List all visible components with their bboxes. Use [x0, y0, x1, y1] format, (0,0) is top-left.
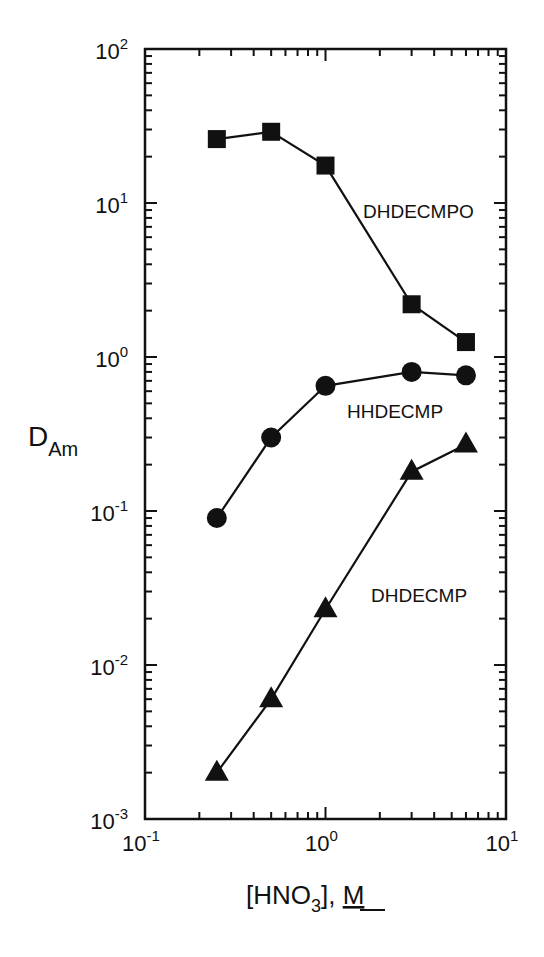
x-tick-label: 101	[486, 827, 519, 856]
circle-marker	[402, 362, 422, 382]
square-marker	[403, 295, 421, 313]
circle-marker	[261, 428, 281, 448]
y-axis-label: DAm	[28, 421, 78, 460]
triangle-marker	[400, 459, 424, 480]
x-tick-label: 10-1	[122, 827, 160, 856]
triangle-marker	[259, 686, 283, 707]
x-axis-label: [HNO3], M	[246, 880, 364, 916]
circle-marker	[207, 508, 227, 528]
y-tick-label: 10-1	[90, 497, 128, 526]
series-label: DHDECMPO	[363, 201, 474, 222]
y-tick-label: 100	[95, 343, 128, 372]
series-label: HHDECMP	[347, 401, 443, 422]
triangle-marker	[314, 596, 338, 617]
triangle-marker	[454, 432, 478, 453]
series-dhdecmp	[205, 432, 478, 781]
series-dhdecmpo	[208, 123, 475, 351]
y-tick-label: 102	[95, 35, 128, 64]
y-tick-label: 101	[95, 189, 128, 218]
series-label: DHDECMP	[371, 585, 467, 606]
log-log-chart: 10210110010-110-210-310-1100101 DHDECMPO…	[0, 0, 544, 957]
x-tick-label: 100	[305, 827, 338, 856]
series-hhdecmp	[207, 362, 476, 528]
circle-marker	[316, 376, 336, 396]
square-marker	[317, 157, 335, 175]
circle-marker	[456, 365, 476, 385]
square-marker	[208, 130, 226, 148]
y-tick-label: 10-3	[90, 805, 128, 834]
square-marker	[457, 333, 475, 351]
square-marker	[262, 123, 280, 141]
tick-labels: 10210110010-110-210-310-1100101	[90, 35, 518, 856]
y-tick-label: 10-2	[90, 651, 128, 680]
